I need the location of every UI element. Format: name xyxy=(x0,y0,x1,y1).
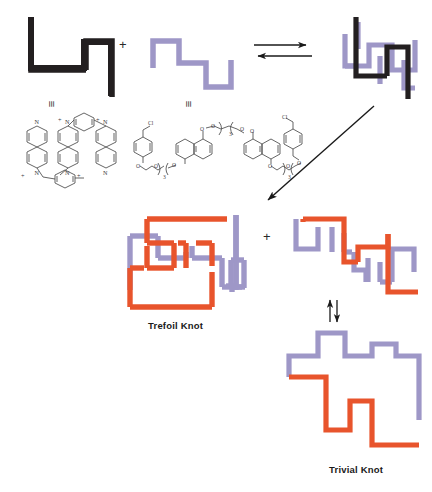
atom-label-N: N xyxy=(103,169,108,176)
diagonal-arrow-icon xyxy=(268,106,374,200)
bisnaphtho-thread-structure xyxy=(134,118,302,175)
cyclophane-atom-labels: N N N N N N + + + + xyxy=(21,116,108,179)
atom-label-Cl: Cl xyxy=(148,120,154,126)
charge-plus: + xyxy=(77,172,81,179)
figure-canvas: N N N N N N + + + + xyxy=(0,0,432,492)
atom-label-O: O xyxy=(297,160,301,166)
atom-label-O: O xyxy=(136,163,140,169)
scheme-vector-layer: N N N N N N + + + + xyxy=(0,0,432,492)
charge-plus: + xyxy=(96,116,100,123)
open-chain-purple xyxy=(296,219,414,282)
repeat-subscript: 3 xyxy=(229,131,232,137)
plus-sign-bottom: + xyxy=(263,230,271,243)
plus-sign-top: + xyxy=(119,38,127,51)
atom-label-Cl: Cl xyxy=(282,114,288,120)
atom-label-O: O xyxy=(250,128,254,134)
trefoil-knot-orange xyxy=(130,219,227,307)
atom-label-O: O xyxy=(286,163,290,169)
atom-label-N: N xyxy=(65,169,70,176)
atom-label-O: O xyxy=(240,126,244,132)
atom-label-N: N xyxy=(35,118,40,125)
repeat-subscript: 3 xyxy=(163,174,166,180)
purple-thread-schematic xyxy=(153,41,231,87)
atom-label-O: O xyxy=(154,163,158,169)
charge-plus: + xyxy=(21,172,25,179)
atom-label-O: O xyxy=(200,126,204,132)
charge-plus: + xyxy=(58,116,62,123)
atom-label-O: O xyxy=(172,162,176,168)
repeat-subscript: 3 xyxy=(288,174,291,180)
atom-label-O: O xyxy=(211,123,215,129)
black-macrocycle-schematic xyxy=(31,17,111,96)
atom-label-N: N xyxy=(35,169,40,176)
vertical-equilibrium-arrow-icon xyxy=(330,300,337,322)
atom-label-N: N xyxy=(103,118,108,125)
trefoil-knot-label: Trefoil Knot xyxy=(148,320,203,331)
equivalence-symbol-right: ≡ xyxy=(183,101,194,108)
atom-label-N: N xyxy=(65,118,70,125)
trivial-knot-label: Trivial Knot xyxy=(329,464,383,475)
equilibrium-arrow-icon xyxy=(254,45,312,56)
thread-atom-labels: Cl Cl O O O O O O O O O O 3 3 3 xyxy=(136,114,301,180)
black-macrocycle-inner xyxy=(31,17,112,97)
atom-label-O: O xyxy=(268,163,272,169)
trivial-knot-orange xyxy=(289,377,419,445)
equivalence-symbol-left: ≡ xyxy=(46,101,57,108)
